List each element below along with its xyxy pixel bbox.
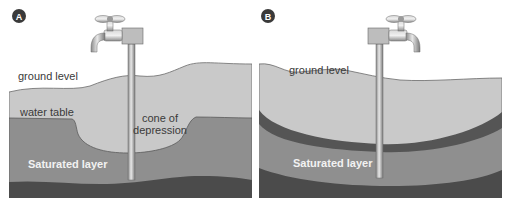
panel-b: B ground level Saturated layer (259, 9, 502, 205)
cone-of-depression-label-2: depression (133, 124, 187, 136)
well-pipe (376, 44, 383, 178)
saturated-layer-label: Saturated layer (293, 157, 373, 169)
panel-a-badge-label: A (16, 12, 23, 22)
ground-level-label: ground level (18, 70, 78, 82)
cone-of-depression-label-1: cone of (142, 112, 179, 124)
panel-b-badge-label: B (265, 12, 272, 22)
well-diagram: A ground level water table cone of depre… (0, 0, 508, 205)
saturated-layer-label: Saturated layer (28, 158, 108, 170)
water-table-label: water table (19, 106, 74, 118)
well-pipe (128, 44, 135, 180)
panel-a: A ground level water table cone of depre… (9, 9, 252, 205)
ground-level-label: ground level (289, 64, 349, 76)
